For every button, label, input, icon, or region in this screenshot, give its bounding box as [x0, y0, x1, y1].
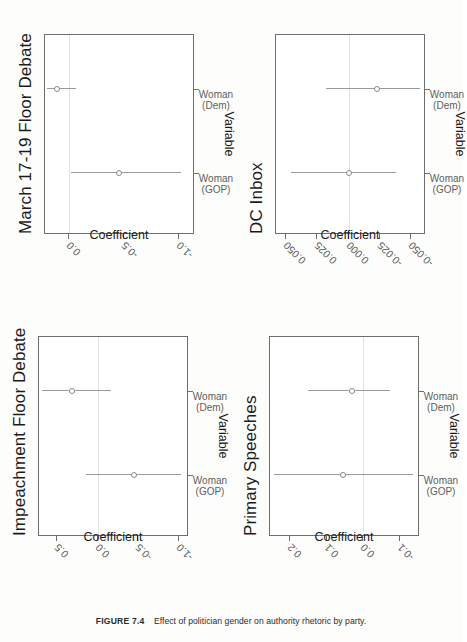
- y-axis-title: Coefficient: [305, 228, 395, 242]
- point-estimate-marker: [374, 86, 380, 92]
- x-axis-tick-label-line: (Dem): [430, 101, 464, 112]
- x-axis-title: Variable: [216, 414, 230, 459]
- y-axis-tick: [178, 536, 179, 541]
- y-axis-tick-label: -0.025: [375, 240, 405, 270]
- zero-reference-line: [363, 337, 364, 535]
- zero-reference-line: [98, 337, 99, 535]
- confidence-interval-bar: [71, 172, 180, 173]
- plot-area: [38, 336, 188, 536]
- confidence-interval-bar: [42, 390, 110, 391]
- figure-panels-container: March 17-19 Floor Debate0.0-0.5-1.0Coeff…: [0, 0, 462, 600]
- x-axis-title: Variable: [447, 414, 461, 459]
- y-axis-tick: [56, 536, 57, 541]
- point-estimate-marker: [340, 472, 346, 478]
- panel-inner: March 17-19 Floor Debate0.0-0.5-1.0Coeff…: [14, 14, 228, 286]
- panel-inner: Impeachment Floor Debate0.50.0-0.5-1.0Co…: [8, 316, 222, 588]
- x-axis-tick-label-line: (GOP): [424, 487, 458, 498]
- x-axis-tick-label-line: (Dem): [193, 403, 227, 414]
- y-axis-tick: [289, 536, 290, 541]
- zero-reference-line: [349, 35, 350, 233]
- x-axis-tick-label-line: Woman: [430, 174, 464, 185]
- plot-area: [44, 34, 194, 234]
- point-estimate-marker: [131, 472, 137, 478]
- x-axis-tick-label-line: Woman: [424, 392, 458, 403]
- point-estimate-marker: [69, 388, 75, 394]
- y-axis-tick-label: 0.050: [281, 240, 308, 267]
- y-axis-title: Coefficient: [68, 530, 158, 544]
- plot-area: [269, 336, 419, 536]
- panel-title: Impeachment Floor Debate: [10, 328, 30, 536]
- y-axis-tick-label: 0.0: [64, 240, 83, 259]
- panel-title: Primary Speeches: [241, 396, 261, 537]
- y-axis-tick-label: -1.0: [174, 542, 195, 563]
- x-axis-tick-label-line: (GOP): [199, 185, 233, 196]
- x-axis-tick-label-line: Woman: [193, 392, 227, 403]
- x-axis-tick-label-line: Woman: [199, 90, 233, 101]
- y-axis-tick-label: 0.025: [312, 240, 339, 267]
- y-axis-tick-label: 0.1: [321, 542, 340, 561]
- panel-march-floor-debate: March 17-19 Floor Debate0.0-0.5-1.0Coeff…: [14, 14, 228, 286]
- y-axis-tick: [399, 536, 400, 541]
- figure-number: FIGURE 7.4: [96, 616, 145, 626]
- x-axis-tick-label: Woman(GOP): [424, 476, 458, 497]
- x-axis-tick-label: Woman(GOP): [193, 476, 227, 497]
- y-axis-tick-label: 0.5: [52, 542, 71, 561]
- confidence-interval-bar: [291, 172, 396, 173]
- x-axis-tick-label: Woman(Dem): [193, 392, 227, 413]
- y-axis-tick-label: 0.0: [92, 542, 111, 561]
- x-axis-tick-label-line: Woman: [424, 476, 458, 487]
- y-axis-tick: [68, 234, 69, 239]
- confidence-interval-bar: [47, 88, 75, 89]
- x-axis-tick-label-line: Woman: [199, 174, 233, 185]
- y-axis-tick-label: 0.0: [358, 542, 377, 561]
- panel-dc-inbox: DC Inbox0.0500.0250.000-0.025-0.050Coeff…: [245, 14, 459, 286]
- point-estimate-marker: [116, 170, 122, 176]
- y-axis-tick-label: -1.0: [173, 240, 194, 261]
- x-axis-tick-label-line: Woman: [430, 90, 464, 101]
- y-axis-tick-label: -0.5: [119, 240, 140, 261]
- y-axis-tick-label: -0.050: [406, 240, 436, 270]
- y-axis-tick-label: 0.2: [285, 542, 304, 561]
- y-axis-tick: [410, 234, 411, 239]
- y-axis-tick-label: -0.5: [133, 542, 154, 563]
- x-axis-tick-label: Woman(GOP): [199, 174, 233, 195]
- y-axis-title: Coefficient: [299, 530, 389, 544]
- x-axis-tick-label-line: (GOP): [193, 487, 227, 498]
- y-axis-tick-label: 0.000: [343, 240, 370, 267]
- x-axis-tick-label-line: (GOP): [430, 185, 464, 196]
- zero-reference-line: [69, 35, 70, 233]
- point-estimate-marker: [346, 170, 352, 176]
- y-axis-tick-label: -0.1: [395, 542, 416, 563]
- confidence-interval-bar: [326, 88, 420, 89]
- panel-title: March 17-19 Floor Debate: [16, 33, 36, 234]
- y-axis-tick: [178, 234, 179, 239]
- y-axis-title: Coefficient: [74, 228, 164, 242]
- panel-primary-speeches: Primary Speeches0.20.10.0-0.1Coefficient…: [239, 316, 453, 588]
- x-axis-tick-label: Woman(GOP): [430, 174, 464, 195]
- x-axis-tick-label: Woman(Dem): [199, 90, 233, 111]
- point-estimate-marker: [349, 388, 355, 394]
- point-estimate-marker: [54, 86, 60, 92]
- panel-inner: Primary Speeches0.20.10.0-0.1Coefficient…: [239, 316, 453, 588]
- panel-impeachment-floor-debate: Impeachment Floor Debate0.50.0-0.5-1.0Co…: [8, 316, 222, 588]
- figure-caption-text: Effect of politician gender on authority…: [154, 616, 366, 626]
- x-axis-tick-label: Woman(Dem): [430, 90, 464, 111]
- x-axis-tick-label-line: (Dem): [199, 101, 233, 112]
- x-axis-title: Variable: [222, 112, 236, 157]
- x-axis-title: Variable: [453, 112, 467, 157]
- y-axis-tick: [285, 234, 286, 239]
- panel-inner: DC Inbox0.0500.0250.000-0.025-0.050Coeff…: [245, 14, 459, 286]
- plot-area: [275, 34, 425, 234]
- panel-title: DC Inbox: [247, 162, 267, 234]
- figure-caption: FIGURE 7.4 Effect of politician gender o…: [0, 616, 462, 626]
- x-axis-tick-label-line: (Dem): [424, 403, 458, 414]
- x-axis-tick-label: Woman(Dem): [424, 392, 458, 413]
- x-axis-tick-label-line: Woman: [193, 476, 227, 487]
